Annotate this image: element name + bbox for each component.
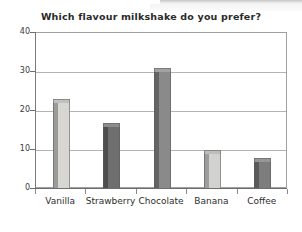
bar-outline	[154, 68, 171, 189]
bar-outline	[103, 123, 120, 189]
x-axis-line	[35, 188, 287, 189]
y-axis-tick	[30, 71, 36, 72]
plot-area	[35, 32, 287, 188]
y-axis-tick	[30, 32, 36, 33]
x-axis-label: Coffee	[237, 196, 287, 206]
x-axis-tick	[85, 189, 86, 194]
x-axis-label: Vanilla	[35, 196, 85, 206]
x-axis-tick	[237, 189, 238, 194]
y-axis-label: 40	[4, 28, 30, 36]
x-axis-label: Strawberry	[85, 196, 135, 206]
x-axis-tick	[186, 189, 187, 194]
bar-outline	[254, 158, 271, 189]
x-axis-tick	[136, 189, 137, 194]
y-axis-tick	[30, 110, 36, 111]
y-axis-label: 0	[4, 184, 30, 192]
bar	[204, 150, 221, 189]
y-axis-label: 30	[4, 67, 30, 75]
bar	[103, 123, 120, 189]
scan-artifact-band-lower	[150, 4, 302, 11]
y-axis-label: 20	[4, 106, 30, 114]
bar	[154, 68, 171, 189]
bar	[53, 99, 70, 189]
bar-outline	[53, 99, 70, 189]
chart-title: Which flavour milkshake do you prefer?	[0, 11, 302, 22]
x-axis-label: Banana	[186, 196, 236, 206]
y-axis-tick	[30, 149, 36, 150]
chart-screenshot: Which flavour milkshake do you prefer? 0…	[0, 0, 302, 232]
bar	[254, 158, 271, 189]
x-axis-label: Chocolate	[136, 196, 186, 206]
y-axis-label: 10	[4, 145, 30, 153]
x-axis-tick	[35, 189, 36, 194]
bar-outline	[204, 150, 221, 189]
x-axis-tick	[287, 189, 288, 194]
